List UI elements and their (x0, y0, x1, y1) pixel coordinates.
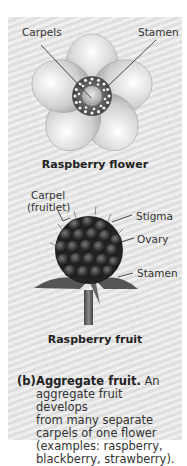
label-carpel: Carpel (31, 189, 65, 201)
label-stigma: Stigma (136, 210, 173, 222)
raspberry-flower-illustration (0, 0, 187, 160)
description-block: (b) Aggregate fruit. An aggregate fruit … (17, 375, 177, 466)
description-marker: (b) (17, 375, 36, 388)
description-line-1: aggregate fruit develops (36, 388, 177, 414)
label-fruitlet: (fruitlet) (27, 201, 70, 213)
label-ovary: Ovary (137, 233, 168, 245)
label-carpels: Carpels (22, 26, 62, 38)
label-stamen-flower: Stamen (138, 26, 179, 38)
label-stamen-fruit: Stamen (137, 267, 178, 279)
caption-raspberry-flower: Raspberry flower (8, 158, 182, 171)
description-line-5: blackberry, strawberry). (36, 453, 177, 466)
description-line-0: An (144, 374, 159, 388)
description-heading: Aggregate fruit. (36, 374, 141, 388)
caption-raspberry-fruit: Raspberry fruit (8, 333, 182, 346)
